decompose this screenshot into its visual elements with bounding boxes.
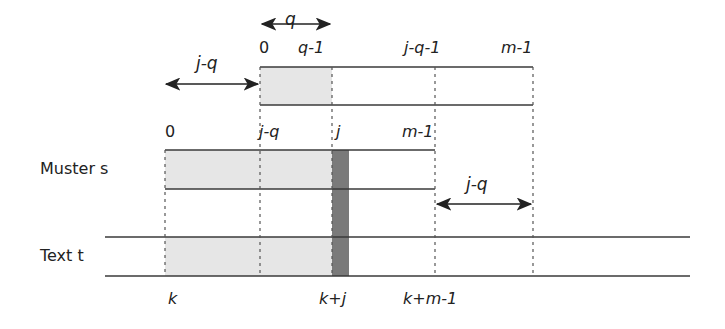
- text-row-label: Text t: [40, 248, 84, 264]
- pattern-index-j: j: [336, 124, 340, 140]
- text-index-k-plus-j: k+j: [319, 291, 346, 307]
- diagram-canvas: [0, 0, 725, 329]
- pattern-matched-shade: [165, 150, 332, 189]
- shifted-index-0: 0: [259, 40, 269, 56]
- shifted-index-q-1: q-1: [298, 40, 324, 56]
- shift-left-arrow-label: j-q: [196, 55, 218, 72]
- text-matched-shade: [165, 237, 332, 276]
- pattern-index-j-q: j-q: [259, 124, 279, 140]
- pattern-index-0: 0: [165, 124, 175, 140]
- text-index-k: k: [168, 291, 177, 307]
- pattern-index-m-1: m-1: [402, 124, 434, 140]
- mismatch-bar: [332, 150, 349, 276]
- shift-right-arrow-label: j-q: [466, 176, 488, 193]
- q-arrow-label: q: [285, 11, 296, 28]
- text-index-k-plus-m-1: k+m-1: [403, 291, 457, 307]
- pattern-row-label: Muster s: [40, 161, 108, 177]
- shifted-pattern-matched-shade: [260, 67, 332, 105]
- shifted-index-m-1: m-1: [501, 40, 533, 56]
- shifted-index-j-q-1: j-q-1: [404, 40, 440, 56]
